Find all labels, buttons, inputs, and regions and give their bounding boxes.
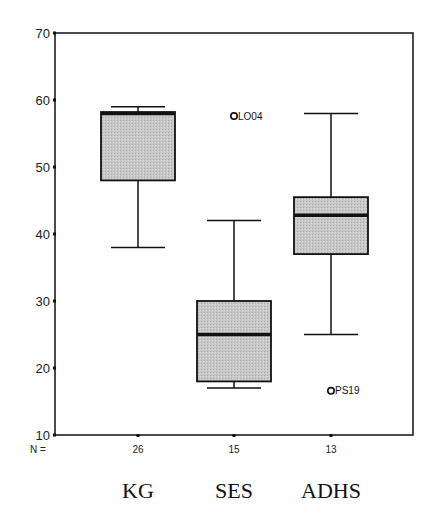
y-tick-label: 60: [36, 93, 50, 108]
y-tick-mark: [53, 367, 56, 370]
category-label-adhs: ADHS: [301, 478, 361, 503]
outlier-marker: [328, 388, 334, 394]
n-prefix-label: N =: [30, 444, 46, 455]
outlier-label: LO04: [238, 111, 263, 122]
y-tick-label: 50: [36, 160, 50, 175]
y-tick-label: 40: [36, 227, 50, 242]
x-tick-mark: [330, 434, 333, 437]
n-count-adhs: 13: [325, 444, 337, 455]
y-tick-label: 70: [36, 26, 50, 41]
box-kg: [101, 112, 175, 180]
category-label-kg: KG: [122, 478, 154, 503]
y-tick-mark: [53, 434, 56, 437]
box-ses: [197, 301, 271, 381]
outlier-marker: [231, 113, 237, 119]
x-tick-mark: [233, 434, 236, 437]
y-tick-label: 30: [36, 294, 50, 309]
y-tick-label: 10: [36, 428, 50, 443]
category-label-ses: SES: [215, 478, 253, 503]
n-count-kg: 26: [132, 444, 144, 455]
boxplot-chart: 10203040506070N =26KG15SESLO0413ADHSPS19: [0, 0, 437, 528]
y-tick-mark: [53, 166, 56, 169]
n-count-ses: 15: [228, 444, 240, 455]
outlier-label: PS19: [335, 385, 360, 396]
y-tick-mark: [53, 300, 56, 303]
y-tick-label: 20: [36, 361, 50, 376]
x-tick-mark: [137, 434, 140, 437]
y-tick-mark: [53, 99, 56, 102]
y-tick-mark: [53, 233, 56, 236]
box-adhs: [294, 197, 368, 254]
y-tick-mark: [53, 32, 56, 35]
